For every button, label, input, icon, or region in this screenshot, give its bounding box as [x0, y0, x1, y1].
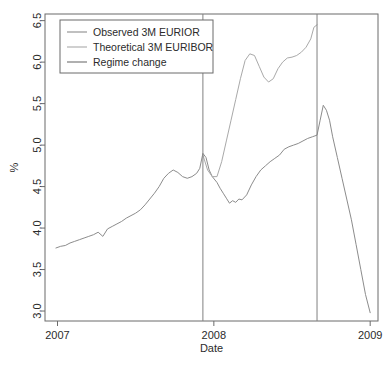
series-line	[203, 25, 317, 177]
y-tick-label: 3.5	[31, 262, 43, 277]
chart-container: 3.03.54.04.55.05.56.06.5200720082009 Obs…	[0, 0, 392, 365]
legend-label: Theoretical 3M EURIBOR	[93, 41, 214, 53]
x-tick-label: 2009	[358, 329, 382, 341]
y-tick-label: 5.0	[31, 137, 43, 152]
y-axis-title: %	[8, 162, 20, 172]
y-tick-label: 3.0	[31, 303, 43, 318]
y-tick-label: 4.0	[31, 220, 43, 235]
y-tick-label: 5.5	[31, 96, 43, 111]
y-tick-label: 4.5	[31, 179, 43, 194]
x-tick-label: 2007	[45, 329, 69, 341]
legend-label: Regime change	[93, 56, 167, 68]
legend-label: Observed 3M EURIOR	[93, 26, 200, 38]
y-tick-label: 6.5	[31, 13, 43, 28]
line-chart: 3.03.54.04.55.05.56.06.5200720082009 Obs…	[0, 0, 392, 365]
y-tick-label: 6.0	[31, 54, 43, 69]
x-axis-title: Date	[200, 342, 223, 354]
chart-legend: Observed 3M EURIORTheoretical 3M EURIBOR…	[60, 20, 214, 73]
x-tick-label: 2008	[202, 329, 226, 341]
series-line	[56, 105, 370, 312]
